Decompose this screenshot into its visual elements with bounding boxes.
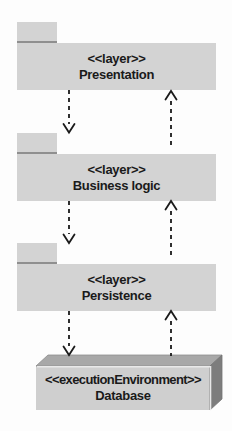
package-body: <<layer>> Presentation bbox=[17, 43, 216, 90]
dependency-arrow-business-logic-to-persistence bbox=[64, 201, 75, 243]
stereotype-label: <<layer>> bbox=[87, 51, 145, 67]
package-tab bbox=[17, 243, 57, 264]
dependency-arrow-database-to-persistence bbox=[166, 311, 177, 356]
package-name: Business logic bbox=[73, 178, 161, 194]
package-tab bbox=[17, 133, 57, 154]
package-persistence: <<layer>> Persistence bbox=[17, 243, 216, 311]
package-body: <<layer>> Persistence bbox=[17, 264, 216, 311]
node-top-face bbox=[36, 355, 222, 366]
package-body: <<layer>> Business logic bbox=[17, 154, 216, 201]
package-name: Presentation bbox=[79, 67, 154, 83]
stereotype-label: <<executionEnvironment>> bbox=[45, 372, 201, 388]
layered-architecture-diagram: <<layer>> Presentation <<layer>> Busines… bbox=[0, 0, 232, 431]
package-name: Persistence bbox=[82, 288, 152, 304]
stereotype-label: <<layer>> bbox=[87, 272, 145, 288]
package-business-logic: <<layer>> Business logic bbox=[17, 133, 216, 201]
node-database: <<executionEnvironment>> Database bbox=[36, 366, 210, 410]
package-presentation: <<layer>> Presentation bbox=[17, 22, 216, 90]
stereotype-label: <<layer>> bbox=[87, 162, 145, 178]
node-side-face bbox=[210, 355, 222, 410]
package-tab bbox=[17, 22, 57, 43]
dependency-arrow-presentation-to-business-logic bbox=[64, 90, 75, 133]
node-name: Database bbox=[95, 388, 150, 404]
dependency-arrow-persistence-to-database bbox=[64, 311, 75, 355]
